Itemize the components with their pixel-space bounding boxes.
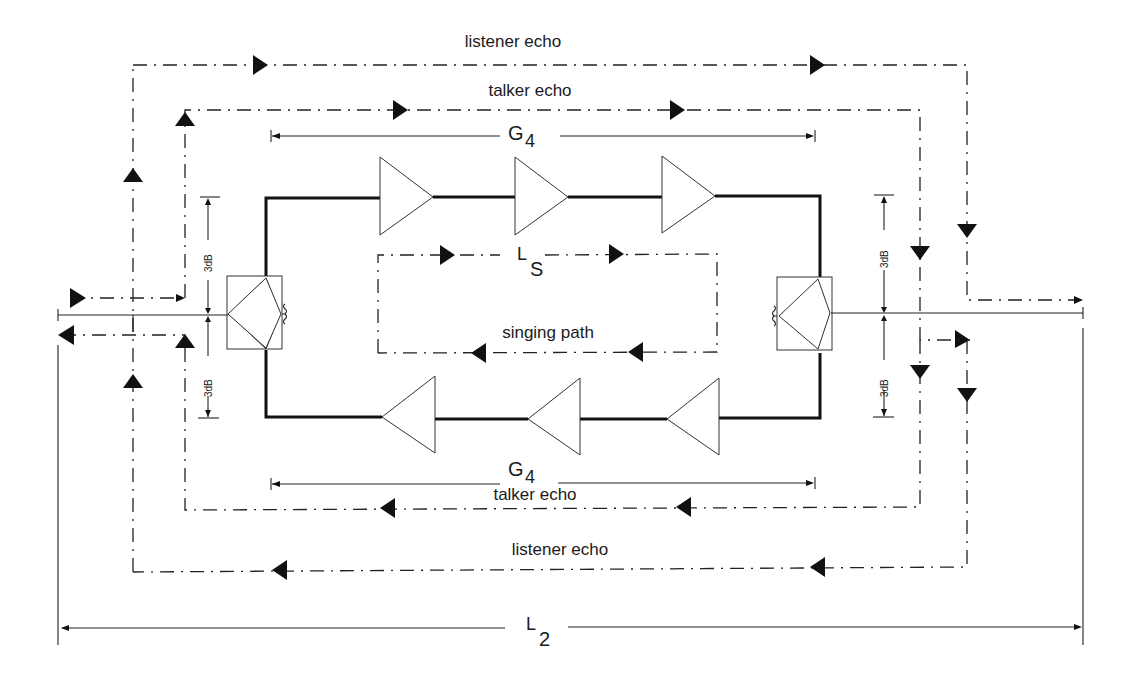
arrow-left-icon	[471, 343, 486, 363]
arrow-right-icon	[1074, 296, 1083, 304]
amplifier-left-icon	[528, 378, 580, 455]
talker-echo-label-top: talker echo	[488, 81, 571, 100]
gain-label-bottom-sub: 4	[525, 467, 535, 487]
hybrid-loss-right: 3dB 3dB	[873, 195, 894, 417]
arrow-right-icon	[670, 100, 685, 120]
singing-loss-symbol: L	[517, 244, 527, 264]
left-hybrid	[227, 276, 287, 349]
balance-network-icon	[282, 304, 287, 324]
listener-echo-label-top: listener echo	[465, 32, 561, 51]
two-wire-left	[58, 309, 228, 332]
amplifier-left-icon	[667, 378, 719, 455]
arrow-left-icon	[380, 498, 395, 518]
talker-echo-label-bottom: talker echo	[493, 485, 576, 504]
listener-echo-label-bottom: listener echo	[512, 540, 608, 559]
arrow-down-icon	[957, 224, 977, 238]
arrow-left-icon	[58, 325, 74, 345]
arrow-right-icon	[440, 245, 455, 265]
gain-label-top-sub: 4	[525, 131, 535, 151]
singing-path-label: singing path	[502, 323, 594, 342]
gain-dimension-top: G 4	[271, 122, 815, 151]
arrow-right-icon	[810, 55, 825, 75]
gain-label-top: G	[508, 122, 524, 144]
arrow-left-icon	[676, 497, 691, 517]
singing-path: L S singing path	[378, 244, 717, 363]
singing-loss-sub: S	[530, 258, 543, 280]
lower-amplifiers	[382, 376, 719, 455]
arrow-down-icon	[910, 246, 930, 260]
arrow-right-icon	[253, 55, 268, 75]
arrow-up-icon	[123, 374, 143, 388]
amplifier-right-icon	[662, 156, 715, 233]
hybrid-loss-right-upper-label: 3dB	[879, 250, 890, 268]
arrow-left-icon	[810, 557, 825, 577]
arrow-up-icon	[123, 168, 143, 182]
arrow-up-icon	[175, 112, 195, 126]
balance-network-icon	[773, 306, 778, 326]
two-wire-right	[831, 307, 1083, 319]
hybrid-loss-left-lower-label: 3dB	[203, 379, 214, 397]
arrow-down-icon	[910, 365, 930, 379]
hybrid-loss-right-lower-label: 3dB	[879, 379, 890, 397]
amplifier-right-icon	[380, 157, 433, 235]
amplifier-left-icon	[382, 376, 435, 453]
arrow-left-icon	[272, 560, 287, 580]
right-hybrid	[773, 277, 833, 350]
two-wire-loss-sub: 2	[539, 628, 550, 650]
upper-amplifiers	[380, 156, 715, 235]
arrow-right-icon	[955, 330, 970, 348]
arrow-right-icon	[176, 294, 185, 302]
arrow-right-icon	[393, 100, 408, 120]
arrow-right-icon	[609, 244, 624, 264]
arrow-up-icon	[175, 334, 195, 348]
two-wire-loss-symbol: L	[526, 614, 536, 634]
hybrid-loss-left-upper-label: 3dB	[203, 254, 214, 272]
hybrid-loss-left: 3dB 3dB	[198, 197, 220, 418]
arrow-left-icon	[628, 342, 643, 362]
gain-label-bottom: G	[508, 458, 524, 480]
arrow-down-icon	[957, 388, 977, 402]
amplifier-right-icon	[515, 157, 568, 235]
arrow-right-icon	[70, 288, 86, 308]
echo-path-diagram: listener echo talker echo G 4	[0, 0, 1135, 673]
